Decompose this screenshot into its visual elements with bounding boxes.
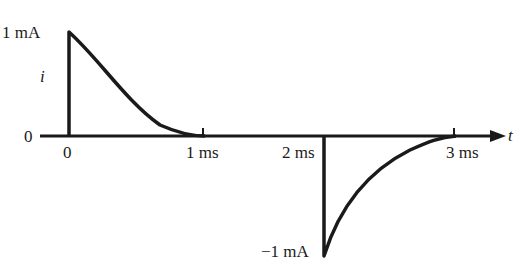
tick-label-0: 0	[63, 143, 72, 162]
chart: 1 mA i 0 0 1 ms 2 ms 3 ms t −1 mA	[0, 0, 523, 272]
trough-label: −1 mA	[261, 242, 310, 261]
axis-arrow-icon	[490, 130, 506, 142]
negative-pulse-curve	[324, 136, 456, 256]
tick-label-1ms: 1 ms	[186, 143, 219, 162]
zero-value-label: 0	[24, 127, 33, 146]
x-axis-label: t	[508, 126, 514, 145]
positive-pulse-curve	[69, 32, 205, 136]
peak-label: 1 mA	[2, 23, 41, 42]
tick-label-3ms: 3 ms	[446, 143, 479, 162]
tick-label-2ms: 2 ms	[282, 143, 315, 162]
y-axis-label: i	[40, 67, 45, 86]
